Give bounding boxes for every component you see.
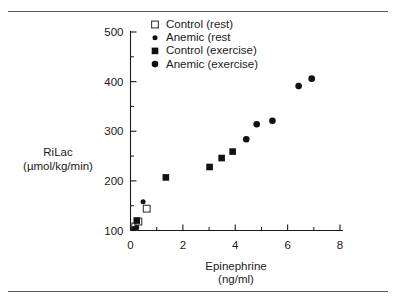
figure-container: 02468 100200300400500 Control (rest)Anem…	[0, 0, 396, 302]
y-tick-label: 200	[104, 175, 123, 187]
data-point	[206, 164, 213, 171]
y-tick-label: 300	[104, 125, 123, 137]
y-tick-label: 100	[104, 225, 123, 237]
y-axis-tick-labels: 100200300400500	[104, 26, 123, 237]
legend-item-label: Anemic (exercise)	[166, 58, 258, 70]
x-axis-tick-labels: 02468	[127, 239, 343, 251]
series-3	[243, 75, 315, 142]
legend-marker-icon	[152, 61, 159, 68]
data-point-group	[131, 75, 315, 231]
x-axis-title: Epinephrine	[205, 260, 266, 272]
x-tick-label: 0	[127, 239, 133, 251]
legend-marker-icon	[153, 35, 158, 40]
y-axis-unit: (µmol/kg/min)	[23, 160, 93, 172]
legend-item-label: Control (exercise)	[166, 44, 257, 56]
data-point	[218, 155, 225, 162]
x-tick-label: 8	[337, 239, 343, 251]
x-tick-label: 4	[232, 239, 239, 251]
data-point	[141, 199, 146, 204]
legend-item-label: Anemic (rest	[166, 31, 231, 43]
data-point	[163, 174, 170, 181]
data-point	[269, 118, 276, 125]
series-1	[131, 199, 145, 231]
legend-marker-icon	[152, 21, 159, 28]
data-point	[229, 148, 236, 155]
legend-item[interactable]: Anemic (exercise)	[152, 58, 258, 70]
data-point	[253, 121, 260, 128]
y-tick-label: 500	[104, 26, 123, 38]
legend-item-label: Control (rest)	[166, 18, 233, 30]
x-axis-ticks	[131, 225, 341, 231]
x-tick-label: 2	[180, 239, 186, 251]
x-axis-unit: (ng/ml)	[218, 273, 254, 285]
data-point	[308, 75, 315, 82]
data-point	[295, 83, 302, 90]
legend-marker-icon	[152, 48, 159, 55]
y-axis-title: RiLac	[43, 146, 73, 158]
data-point	[133, 217, 140, 224]
y-tick-label: 400	[104, 76, 123, 88]
data-point	[243, 136, 250, 143]
legend-item[interactable]: Anemic (rest	[153, 31, 232, 43]
legend-item[interactable]: Control (rest)	[152, 18, 234, 30]
x-tick-label: 6	[284, 239, 290, 251]
legend: Control (rest)Anemic (restControl (exerc…	[152, 18, 259, 70]
legend-item[interactable]: Control (exercise)	[152, 44, 257, 56]
y-axis-ticks	[131, 32, 137, 231]
scatter-plot: 02468 100200300400500 Control (rest)Anem…	[0, 0, 396, 302]
data-point	[134, 225, 139, 230]
data-point	[143, 205, 150, 212]
